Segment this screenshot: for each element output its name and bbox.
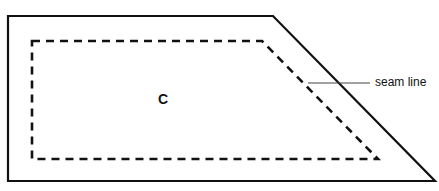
seam-line-annotation: seam line bbox=[375, 75, 426, 89]
pattern-piece-drawing bbox=[0, 0, 439, 191]
piece-label: C bbox=[158, 91, 168, 107]
seam-line bbox=[32, 41, 378, 159]
pattern-piece-diagram: C seam line bbox=[0, 0, 439, 191]
